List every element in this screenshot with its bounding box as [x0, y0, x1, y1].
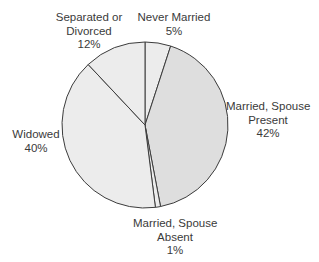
- label-percent: 5%: [132, 25, 216, 39]
- label-percent: 12%: [52, 38, 126, 52]
- label-percent: 1%: [133, 244, 217, 258]
- label-text: Absent: [133, 231, 217, 245]
- label-text: Married, Spouse: [226, 100, 310, 114]
- label-married-spouse-present: Married, Spouse Present 42%: [226, 100, 310, 141]
- label-married-spouse-absent: Married, Spouse Absent 1%: [133, 217, 217, 258]
- label-never-married: Never Married 5%: [132, 11, 216, 38]
- label-text: Separated or: [52, 11, 126, 25]
- label-text: Married, Spouse: [133, 217, 217, 231]
- label-text: Never Married: [132, 11, 216, 25]
- label-text: Present: [226, 114, 310, 128]
- label-widowed: Widowed 40%: [2, 128, 70, 155]
- label-text: Widowed: [2, 128, 70, 142]
- label-percent: 40%: [2, 142, 70, 156]
- label-text: Divorced: [52, 25, 126, 39]
- label-separated-divorced: Separated or Divorced 12%: [52, 11, 126, 52]
- label-percent: 42%: [226, 127, 310, 141]
